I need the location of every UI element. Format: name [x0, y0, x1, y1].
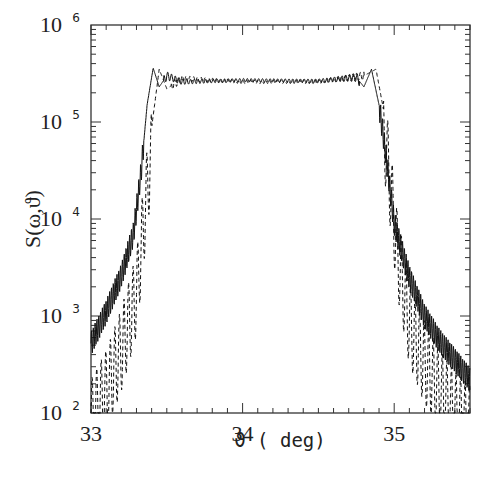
- y-tick-label-exponent: 6: [72, 11, 80, 25]
- y-tick-labels: 102103104105106: [40, 11, 80, 425]
- y-tick-label-exponent: 4: [72, 205, 80, 219]
- chart: 333435 102103104105106 ϑ ( deg) S(ω,ϑ): [0, 0, 487, 482]
- y-axis-title: S(ω,ϑ): [20, 190, 45, 248]
- series-layer: [91, 68, 470, 413]
- y-tick-label-exponent: 5: [72, 108, 80, 122]
- x-axis-title: ϑ ( deg): [234, 429, 326, 451]
- x-tick-label: 35: [383, 421, 405, 446]
- series-line-dashed: [91, 69, 470, 413]
- y-tick-label-base: 10: [40, 303, 62, 328]
- y-tick-label-exponent: 2: [72, 399, 80, 413]
- y-tick-label-base: 10: [40, 12, 62, 37]
- y-tick-label-base: 10: [40, 400, 62, 425]
- series-line-solid: [91, 68, 470, 390]
- x-tick-label: 33: [80, 421, 102, 446]
- y-tick-label-base: 10: [40, 109, 62, 134]
- y-tick-label-exponent: 3: [72, 302, 80, 316]
